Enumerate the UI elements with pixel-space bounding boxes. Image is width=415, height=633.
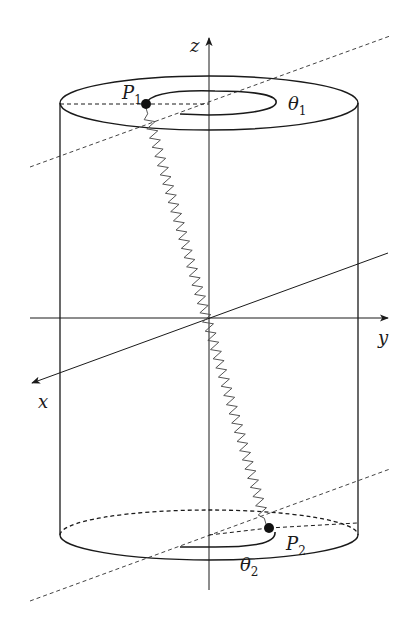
spring [144, 108, 266, 524]
p2-label: P2 [285, 533, 306, 558]
point-p1 [141, 99, 151, 109]
bottom-radius-dashed-left [209, 528, 269, 535]
z-axis-label: z [189, 35, 200, 56]
x-axis-label: x [38, 391, 48, 412]
theta2-label: θ2 [240, 554, 258, 579]
point-p2 [264, 523, 274, 533]
p1-label: P1 [121, 82, 142, 107]
theta1-label: θ1 [288, 93, 306, 118]
y-axis-label: y [377, 327, 389, 348]
theta1-angle-arc [146, 91, 276, 115]
cylinder-spring-diagram: z y x P1 P2 θ1 θ2 [0, 0, 415, 633]
theta2-angle-arc [180, 532, 275, 547]
top-dashed-line [30, 36, 390, 167]
